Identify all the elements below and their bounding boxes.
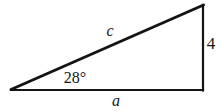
hypotenuse-label: c (106, 23, 113, 39)
triangle-figure: c a 4 28° (0, 0, 222, 111)
opposite-side-length-label: 4 (207, 35, 216, 52)
angle-measure-label: 28° (64, 70, 86, 86)
triangle-drawing (0, 0, 222, 111)
base-label: a (112, 93, 120, 109)
triangle-hypotenuse-line (11, 5, 204, 90)
